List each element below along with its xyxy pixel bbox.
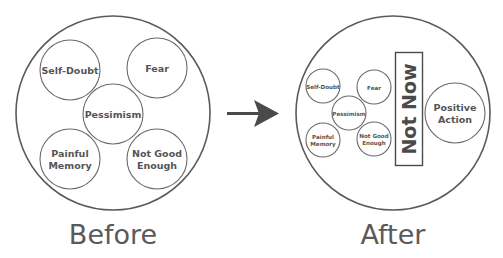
not-now-barrier: Not Now	[396, 53, 423, 166]
after-caption: After	[361, 219, 427, 250]
before-after-diagram: Self-Doubt Fear Painful Memory Not Good …	[0, 0, 503, 258]
circle-label-line1: Painful	[312, 134, 334, 140]
before-circle-self-doubt: Self-Doubt	[40, 40, 100, 100]
after-circle-not-good-enough: Not Good Enough	[357, 122, 391, 156]
before-circle-painful-memory: Painful Memory	[40, 129, 100, 189]
before-circle-not-good-enough: Not Good Enough	[127, 129, 187, 189]
circle-label-line1: Not Good	[132, 148, 182, 159]
before-group: Self-Doubt Fear Painful Memory Not Good …	[16, 16, 210, 250]
before-caption: Before	[69, 219, 157, 250]
circle-label: Pessimism	[85, 109, 142, 120]
after-circle-painful-memory: Painful Memory	[306, 123, 340, 157]
after-circle-positive-action: Positive Action	[425, 83, 485, 143]
before-circle-pessimism: Pessimism	[83, 84, 143, 144]
circle-label: Fear	[145, 63, 169, 74]
circle-label: Fear	[367, 85, 381, 91]
before-circle-fear: Fear	[127, 38, 187, 98]
circle-label: Self-Doubt	[42, 65, 99, 76]
circle-label-line1: Positive	[434, 102, 477, 113]
circle-label-line1: Painful	[51, 148, 88, 159]
circle-label-line2: Enough	[137, 160, 177, 171]
circle-label-line2: Memory	[310, 141, 336, 148]
after-circle-pessimism: Pessimism	[332, 96, 366, 130]
after-circle-self-doubt: Self-Doubt	[306, 69, 340, 103]
circle-label-line2: Action	[438, 114, 472, 125]
circle-label-line1: Not Good	[359, 133, 388, 139]
circle-label-line2: Enough	[362, 140, 386, 147]
circle-label: Pessimism	[332, 111, 366, 117]
circle-label: Self-Doubt	[306, 84, 340, 90]
not-now-label: Not Now	[398, 63, 420, 154]
circle-label-line2: Memory	[48, 160, 92, 171]
after-circle-fear: Fear	[357, 70, 391, 104]
arrow-right-icon	[227, 100, 279, 127]
after-group: Self-Doubt Fear Painful Memory Not Good …	[296, 16, 490, 250]
